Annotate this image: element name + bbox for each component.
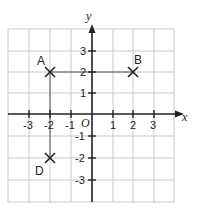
point-b: B — [128, 53, 142, 77]
point-label: D — [35, 164, 44, 178]
x-tick-label: 2 — [130, 119, 136, 131]
y-axis-label: y — [85, 9, 92, 23]
grid — [8, 29, 174, 202]
x-tick-label: -2 — [44, 119, 54, 131]
point-a: A — [37, 54, 55, 77]
x-tick-label: -3 — [23, 119, 33, 131]
axes — [8, 30, 178, 202]
y-tick-label: -3 — [75, 174, 85, 186]
x-tick-label: 3 — [150, 119, 156, 131]
point-label: B — [134, 53, 142, 67]
y-tick-label: -1 — [75, 130, 85, 142]
x-tick-label: -1 — [65, 119, 75, 131]
y-tick-label: 1 — [80, 87, 86, 99]
x-tick-label: 1 — [110, 119, 116, 131]
y-tick-label: 3 — [80, 45, 86, 57]
coordinate-grid-diagram: x y O -3 -2 -1 1 2 3 3 2 1 -1 -2 -3 A B … — [0, 0, 199, 217]
point-label: A — [37, 54, 45, 68]
origin-label: O — [81, 116, 90, 130]
y-tick-label: 2 — [80, 66, 86, 78]
y-tick-label: -2 — [75, 152, 85, 164]
point-d: D — [35, 153, 55, 178]
x-axis-label: x — [181, 110, 188, 124]
